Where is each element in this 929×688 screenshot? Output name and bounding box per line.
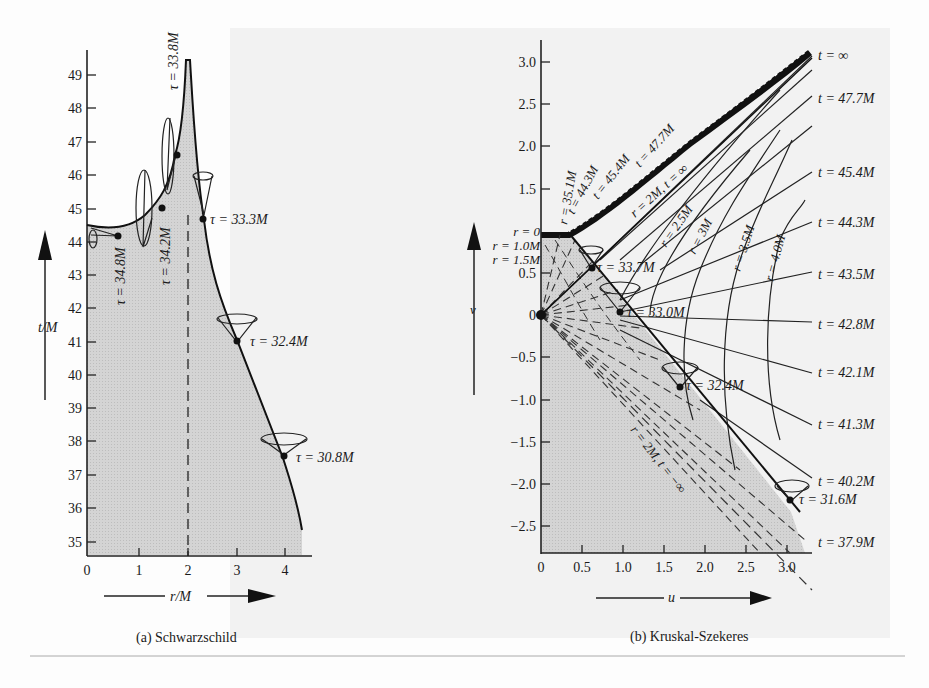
r-axis-arrow-a: r/M — [104, 589, 276, 604]
panel-b-kruskal: 3.0 2.5 2.0 1.5 0.5 0 −0.5 −1.0 −1.5 −2.… — [467, 40, 876, 645]
svg-text:44: 44 — [68, 235, 82, 250]
svg-text:τ = 34.8M: τ = 34.8M — [113, 246, 128, 305]
svg-text:τ = 32.4M: τ = 32.4M — [686, 378, 745, 393]
svg-text:41: 41 — [68, 335, 82, 350]
svg-text:2.5: 2.5 — [737, 560, 755, 575]
svg-text:48: 48 — [68, 101, 82, 116]
svg-text:−1.5: −1.5 — [511, 435, 536, 450]
svg-text:42: 42 — [68, 301, 82, 316]
svg-text:39: 39 — [68, 401, 82, 416]
svg-text:r/M: r/M — [170, 589, 192, 604]
svg-text:36: 36 — [68, 501, 82, 516]
svg-text:τ = 33.8M: τ = 33.8M — [166, 31, 181, 90]
svg-text:43: 43 — [68, 268, 82, 283]
svg-text:2.5: 2.5 — [519, 97, 537, 112]
svg-text:t = 44.3M: t = 44.3M — [818, 215, 876, 230]
figure-svg: 35 36 37 38 39 40 41 42 43 44 45 46 47 4… — [0, 0, 929, 688]
svg-text:τ = 34.2M: τ = 34.2M — [158, 226, 173, 285]
svg-text:0: 0 — [84, 563, 91, 578]
svg-text:τ = 33.0M: τ = 33.0M — [627, 305, 686, 320]
svg-text:0: 0 — [529, 308, 536, 323]
svg-text:46: 46 — [68, 168, 82, 183]
svg-text:t = 45.4M: t = 45.4M — [818, 165, 876, 180]
svg-text:35: 35 — [68, 535, 82, 550]
svg-text:τ = 31.6M: τ = 31.6M — [799, 492, 858, 507]
x-tick-labels-a: 0 1 2 3 4 — [84, 563, 289, 578]
svg-text:r = 4.0M: r = 4.0M — [761, 232, 788, 283]
panel-a-schwarzschild: 35 36 37 38 39 40 41 42 43 44 45 46 47 4… — [38, 31, 355, 646]
svg-text:1.0: 1.0 — [614, 560, 632, 575]
svg-text:t = 47.7M: t = 47.7M — [818, 91, 876, 106]
v-axis-arrow-b: v — [467, 222, 481, 395]
svg-text:45: 45 — [68, 202, 82, 217]
y-tick-labels-b: 3.0 2.5 2.0 1.5 0.5 0 −0.5 −1.0 −1.5 −2.… — [511, 55, 536, 534]
svg-text:τ = 32.4M: τ = 32.4M — [250, 334, 309, 349]
svg-text:47: 47 — [68, 135, 82, 150]
svg-text:3.0: 3.0 — [519, 55, 537, 70]
svg-text:40: 40 — [68, 368, 82, 383]
t-labels-right-b: t = ∞ t = 47.7M t = 45.4M t = 44.3M t = … — [818, 48, 876, 550]
svg-text:1.5: 1.5 — [655, 560, 673, 575]
svg-text:t = 40.2M: t = 40.2M — [818, 474, 876, 489]
svg-text:−2.0: −2.0 — [511, 477, 536, 492]
svg-text:37: 37 — [68, 468, 82, 483]
svg-text:t = 42.1M: t = 42.1M — [818, 365, 876, 380]
svg-text:t = ∞: t = ∞ — [818, 48, 848, 63]
svg-text:2: 2 — [185, 563, 192, 578]
svg-text:1: 1 — [136, 563, 143, 578]
svg-text:2.0: 2.0 — [519, 139, 537, 154]
svg-text:0.5: 0.5 — [573, 560, 591, 575]
svg-text:49: 49 — [68, 68, 82, 83]
svg-text:u: u — [668, 590, 675, 605]
figure-page: 35 36 37 38 39 40 41 42 43 44 45 46 47 4… — [0, 0, 929, 688]
u-axis-arrow-b: u — [596, 590, 772, 605]
svg-text:−0.5: −0.5 — [511, 350, 536, 365]
svg-text:t = 37.9M: t = 37.9M — [818, 535, 876, 550]
svg-text:2.0: 2.0 — [696, 560, 714, 575]
svg-text:v: v — [470, 302, 476, 317]
svg-text:1.5: 1.5 — [519, 182, 537, 197]
svg-text:3.0: 3.0 — [778, 560, 796, 575]
svg-text:τ = 33.3M: τ = 33.3M — [210, 212, 269, 227]
x-tick-labels-b: 0 0.5 1.0 1.5 2.0 2.5 3.0 — [538, 560, 796, 575]
svg-text:τ = 30.8M: τ = 30.8M — [296, 450, 355, 465]
svg-text:r = 1.0M: r = 1.0M — [493, 238, 542, 253]
svg-text:3: 3 — [234, 563, 241, 578]
svg-text:r = 0: r = 0 — [513, 224, 540, 239]
svg-text:t = 41.3M: t = 41.3M — [818, 417, 876, 432]
caption-b: (b) Kruskal-Szekeres — [630, 629, 749, 645]
t-axis-arrow-a: t/M — [38, 230, 59, 400]
svg-text:38: 38 — [68, 434, 82, 449]
r-labels-left-b: r = 0 r = 1.0M r = 1.5M — [493, 224, 542, 267]
svg-text:r = 3M: r = 3M — [684, 215, 715, 256]
svg-text:0: 0 — [538, 560, 545, 575]
svg-text:t = 43.5M: t = 43.5M — [818, 267, 876, 282]
svg-text:r = 3.5M: r = 3.5M — [729, 222, 758, 273]
svg-text:−2.5: −2.5 — [511, 519, 536, 534]
svg-text:−1.0: −1.0 — [511, 393, 536, 408]
svg-text:4: 4 — [282, 563, 289, 578]
svg-text:t = 42.8M: t = 42.8M — [818, 317, 876, 332]
svg-text:r = 1.5M: r = 1.5M — [493, 252, 542, 267]
y-tick-labels-a: 35 36 37 38 39 40 41 42 43 44 45 46 47 4… — [68, 68, 82, 550]
caption-a: (a) Schwarzschild — [136, 630, 237, 646]
svg-text:0.5: 0.5 — [519, 266, 537, 281]
svg-text:t/M: t/M — [38, 320, 59, 335]
svg-text:τ = 33.7M: τ = 33.7M — [597, 260, 656, 275]
